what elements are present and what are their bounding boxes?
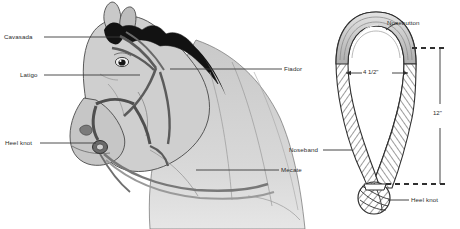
label-heel-knot: Heel knot <box>5 139 32 147</box>
label-latigo: Latigo <box>20 71 37 79</box>
heel-knot-collar <box>364 184 386 190</box>
bosal-diagram <box>323 12 447 214</box>
dimension-height-text: 12" <box>433 110 442 116</box>
figure-svg <box>0 0 460 229</box>
label-fiador: Fiador <box>284 65 302 73</box>
horse-eye-glint <box>119 60 121 62</box>
horse-eye-pupil <box>118 59 125 65</box>
label-nosebutton: Nosebutton <box>387 19 420 27</box>
figure-canvas: Cavasada Latigo Heel knot Fiador Mecate … <box>0 0 460 229</box>
bosal-heel-knot-inner <box>96 144 103 150</box>
horse-nostril <box>80 125 92 135</box>
label-mecate: Mecate <box>281 166 302 174</box>
label-cavasada: Cavasada <box>4 33 33 41</box>
horse-head-drawing <box>70 2 305 229</box>
label-heel-knot-2: Heel knot <box>411 196 438 204</box>
label-noseband: Noseband <box>289 146 318 154</box>
dimension-width-text: 4 1/2" <box>363 69 378 75</box>
